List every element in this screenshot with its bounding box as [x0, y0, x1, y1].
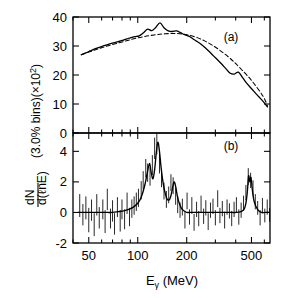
- panel-a-label: (a): [224, 30, 239, 44]
- panel-a-series-data-spectrum: [81, 23, 267, 107]
- x-tick-label: 500: [241, 248, 263, 263]
- panel-a-ytick-label: 0: [60, 126, 67, 141]
- panel-a-ytick-label: 40: [53, 10, 67, 25]
- panel-a-ytick-label: 30: [53, 39, 67, 54]
- panel-b-label: (b): [224, 139, 239, 153]
- panel-a-ytick-label: 10: [53, 97, 67, 112]
- panel-b-ytick-label: 2: [60, 174, 67, 189]
- x-tick-label: 100: [127, 248, 149, 263]
- x-tick-label: 50: [82, 248, 96, 263]
- panel-b-ytick-label: 0: [60, 205, 67, 220]
- x-axis-label: Eγ (MeV): [146, 273, 198, 290]
- x-tick-label: 200: [176, 248, 198, 263]
- two-panel-spectrum-plot: 010203040-202450100200500(a)(b)Eγ (MeV): [0, 0, 284, 298]
- panel-b-ytick-label: 4: [60, 144, 67, 159]
- panel-b-frame: [73, 133, 270, 243]
- panel-b-ytick-label: -2: [55, 236, 67, 251]
- figure-container: 010203040-202450100200500(a)(b)Eγ (MeV) …: [0, 0, 284, 298]
- panel-a-ytick-label: 20: [53, 68, 67, 83]
